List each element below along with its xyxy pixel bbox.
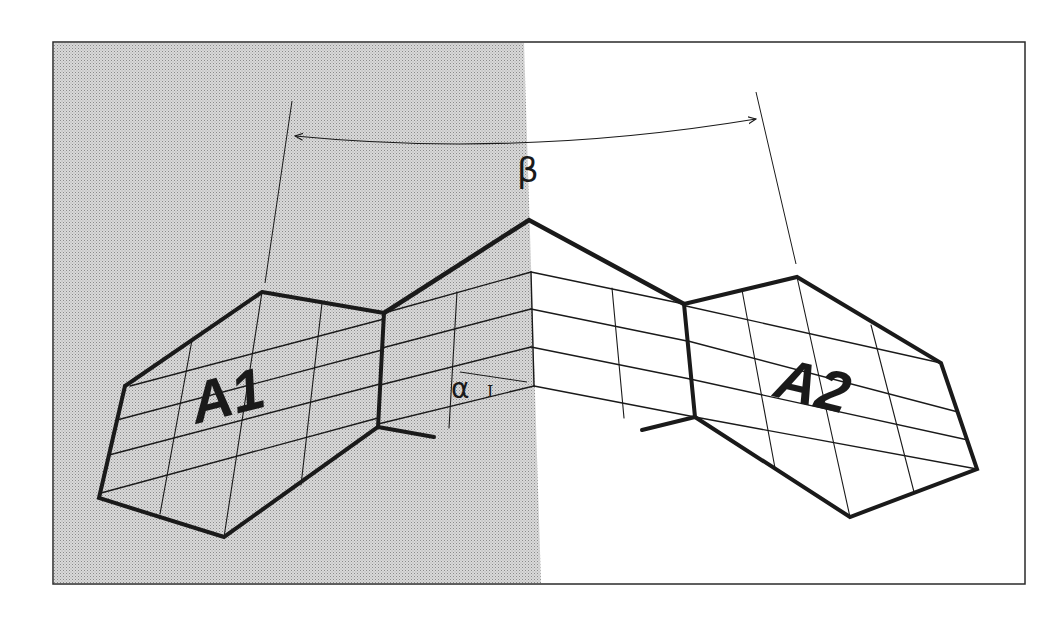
alpha-subscript-label: I bbox=[487, 382, 493, 401]
grid-line-strip-right-row bbox=[531, 272, 684, 304]
grid-line-a2-col bbox=[871, 325, 914, 492]
grid-line-strip-right-row bbox=[531, 309, 687, 341]
grid-line-a2-col bbox=[742, 290, 775, 468]
diagram-canvas: β α I A1 A2 bbox=[0, 0, 1064, 620]
grid-line-strip-right-row bbox=[534, 386, 695, 417]
joint-stub bbox=[642, 417, 695, 430]
beta-label: β bbox=[517, 150, 539, 190]
grid-line-strip-col bbox=[612, 288, 624, 418]
alpha-label: α bbox=[451, 372, 469, 405]
normal-line-right bbox=[756, 92, 796, 264]
shaded-region bbox=[54, 43, 541, 583]
grid-line-strip-right-row bbox=[531, 347, 690, 379]
region-label-a2: A2 bbox=[767, 344, 857, 425]
